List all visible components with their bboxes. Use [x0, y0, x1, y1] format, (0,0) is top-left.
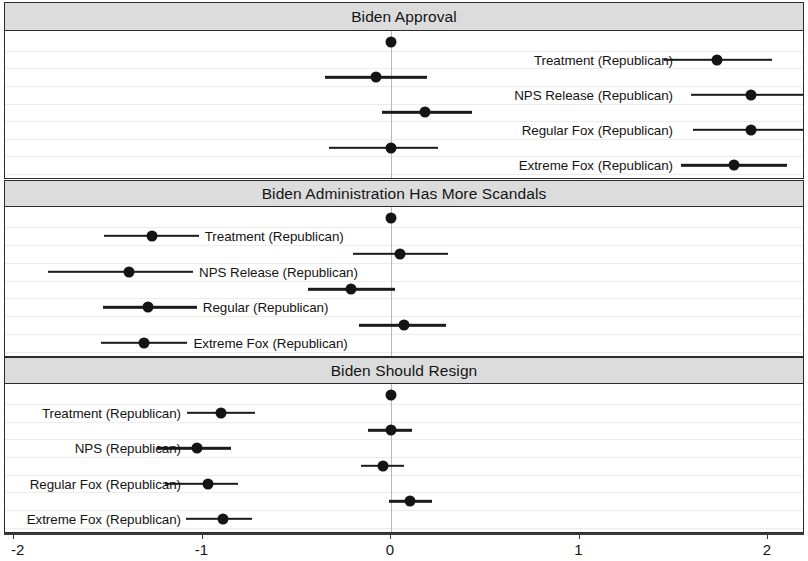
gridline [5, 51, 803, 52]
estimate-label: Treatment (Republican) [42, 405, 181, 420]
gridline [5, 281, 803, 282]
x-axis-line [4, 533, 804, 535]
point-estimate-marker [419, 107, 430, 118]
gridline [5, 298, 803, 299]
x-axis-tick-label: -1 [195, 541, 208, 558]
zero-reference-line [391, 384, 392, 532]
zero-reference-line [391, 207, 392, 356]
point-estimate-marker [746, 124, 757, 135]
x-axis: -2-1012 [4, 533, 804, 561]
gridline [5, 227, 803, 228]
confidence-interval-bar [48, 270, 193, 272]
gridline [5, 457, 803, 458]
estimate-label: Treatment (Republican) [534, 52, 673, 67]
point-estimate-marker [729, 160, 740, 171]
panel-biden-administration-scandals: Biden Administration Has More Scandals T… [4, 180, 804, 357]
panel-plot-area: Treatment (Republican)NPS Release (Repub… [4, 207, 804, 357]
x-axis-tick [579, 533, 580, 539]
gridline [5, 528, 803, 529]
estimate-label: Treatment (Republican) [205, 228, 344, 243]
point-estimate-marker [386, 389, 397, 400]
point-estimate-marker [404, 496, 415, 507]
point-estimate-marker [191, 443, 202, 454]
estimate-label: Regular Fox (Republican) [30, 476, 181, 491]
gridline [5, 156, 803, 157]
point-estimate-marker [386, 425, 397, 436]
panel-plot-area: Treatment (Republican)NPS (Republican)Re… [4, 384, 804, 533]
zero-reference-line [391, 31, 392, 178]
gridline [5, 121, 803, 122]
gridline [5, 245, 803, 246]
point-estimate-marker [346, 284, 357, 295]
point-estimate-marker [712, 54, 723, 65]
estimate-label: Regular Fox (Republican) [522, 122, 673, 137]
x-axis-tick-label: 1 [574, 541, 582, 558]
estimate-label: Regular (Republican) [203, 300, 329, 315]
point-estimate-marker [378, 460, 389, 471]
gridline [5, 86, 803, 87]
panel-plot-area: Treatment (Republican)NPS Release (Repub… [4, 31, 804, 179]
coefficient-plot-figure: Biden Approval Treatment (Republican)NPS… [0, 0, 808, 561]
x-axis-tick-label: 2 [763, 541, 771, 558]
panel-biden-approval: Biden Approval Treatment (Republican)NPS… [4, 2, 804, 179]
gridline [5, 352, 803, 353]
point-estimate-marker [386, 142, 397, 153]
estimate-label: NPS Release (Republican) [514, 87, 673, 102]
x-axis-tick-label: 0 [386, 541, 394, 558]
x-axis-tick [202, 533, 203, 539]
gridline [5, 492, 803, 493]
panel-header-strip: Biden Should Resign [4, 357, 804, 384]
panel-header-strip: Biden Approval [4, 2, 804, 31]
panel-biden-should-resign: Biden Should Resign Treatment (Republica… [4, 357, 804, 533]
gridline [5, 139, 803, 140]
gridline [5, 263, 803, 264]
panel-title: Biden Should Resign [331, 362, 478, 380]
gridline [5, 104, 803, 105]
point-estimate-marker [142, 302, 153, 313]
x-axis-tick-label: -2 [11, 541, 24, 558]
point-estimate-marker [218, 514, 229, 525]
point-estimate-marker [370, 72, 381, 83]
x-axis-tick [13, 533, 14, 539]
estimate-label: Extreme Fox (Republican) [27, 512, 181, 527]
point-estimate-marker [139, 337, 150, 348]
point-estimate-marker [123, 266, 134, 277]
panel-title: Biden Approval [351, 8, 457, 26]
estimate-label: NPS (Republican) [75, 441, 181, 456]
point-estimate-marker [386, 36, 397, 47]
estimate-label: Extreme Fox (Republican) [519, 158, 673, 173]
gridline [5, 68, 803, 69]
gridline [5, 316, 803, 317]
point-estimate-marker [146, 230, 157, 241]
x-axis-tick [767, 533, 768, 539]
x-axis-tick [390, 533, 391, 539]
point-estimate-marker [203, 478, 214, 489]
estimate-label: NPS Release (Republican) [199, 264, 358, 279]
point-estimate-marker [386, 213, 397, 224]
point-estimate-marker [395, 248, 406, 259]
confidence-interval-bar [329, 146, 438, 148]
point-estimate-marker [216, 407, 227, 418]
estimate-label: Extreme Fox (Republican) [193, 335, 347, 350]
point-estimate-marker [746, 89, 757, 100]
panel-header-strip: Biden Administration Has More Scandals [4, 180, 804, 207]
panel-title: Biden Administration Has More Scandals [262, 185, 547, 203]
gridline [5, 334, 803, 335]
gridline [5, 422, 803, 423]
point-estimate-marker [399, 320, 410, 331]
gridline [5, 174, 803, 175]
